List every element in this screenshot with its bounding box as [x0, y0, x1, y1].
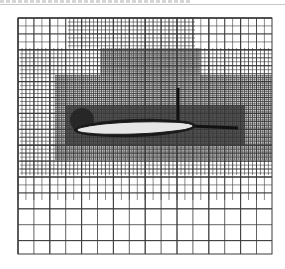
adaptive-mesh-diagram [0, 0, 285, 269]
mesh-figure [0, 0, 285, 269]
